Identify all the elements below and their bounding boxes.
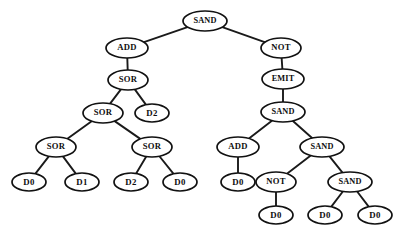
node-label: D2 (125, 177, 137, 187)
tree-edge (331, 191, 343, 206)
node-label: SOR (47, 141, 66, 151)
node-label: D0 (232, 177, 244, 187)
node-label: NOT (271, 42, 291, 52)
node-label: SAND (194, 16, 217, 25)
tree-node[interactable]: SAND (261, 102, 305, 122)
tree-node[interactable]: SOR (132, 137, 172, 157)
tree-edge (287, 156, 311, 174)
tree-node[interactable]: D2 (114, 173, 148, 191)
node-label: D2 (146, 108, 158, 118)
tree-node[interactable]: SOR (83, 103, 123, 123)
tree-node[interactable]: ADD (106, 38, 148, 58)
tree-node[interactable]: D0 (259, 206, 293, 224)
tree-node[interactable]: D0 (358, 206, 392, 224)
node-label: SOR (119, 74, 138, 84)
node-label: EMIT (272, 74, 295, 83)
tree-edge (357, 191, 369, 206)
tree-edge (135, 89, 146, 104)
tree-edge (282, 58, 283, 69)
tree-edge (293, 121, 312, 138)
tree-node[interactable]: EMIT (262, 69, 304, 89)
node-label: D1 (76, 177, 87, 187)
node-label: SAND (311, 142, 334, 151)
tree-edge (159, 156, 173, 173)
node-label: NOT (266, 176, 286, 186)
node-label: D0 (369, 210, 381, 220)
node-layer: SANDADDNOTSOREMITSORD2SANDSORSORADDSANDD… (12, 11, 392, 224)
tree-edge (249, 121, 272, 139)
tree-node[interactable]: ADD (217, 137, 259, 157)
tree-node[interactable]: NOT (256, 172, 296, 192)
tree-edge (136, 157, 146, 174)
tree-edge (35, 156, 48, 173)
node-label: D0 (270, 210, 282, 220)
node-label: D0 (23, 177, 35, 187)
tree-edge (67, 121, 91, 139)
tree-node[interactable]: D0 (12, 173, 46, 191)
tree-edge (144, 27, 188, 42)
tree-svg-canvas: SANDADDNOTSOREMITSORD2SANDSORSORADDSANDD… (0, 0, 411, 240)
tree-edge (330, 156, 343, 172)
node-label: D0 (319, 210, 331, 220)
node-label: SOR (94, 107, 113, 117)
tree-node[interactable]: SOR (108, 70, 148, 90)
tree-edge (110, 89, 121, 103)
tree-node[interactable]: SAND (183, 11, 227, 31)
tree-node[interactable]: NOT (261, 38, 301, 58)
tree-node[interactable]: SAND (300, 137, 344, 157)
tree-node[interactable]: D1 (65, 173, 99, 191)
tree-edge (115, 121, 141, 139)
tree-edge (222, 27, 264, 42)
tree-node[interactable]: D0 (308, 206, 342, 224)
tree-node[interactable]: D2 (135, 104, 169, 122)
tree-edge (63, 156, 76, 173)
node-label: ADD (117, 42, 137, 52)
tree-node[interactable]: SAND (328, 172, 372, 192)
node-label: SOR (143, 141, 162, 151)
node-label: D0 (174, 177, 186, 187)
expression-tree-diagram: SANDADDNOTSOREMITSORD2SANDSORSORADDSANDD… (0, 0, 411, 240)
tree-node[interactable]: D0 (163, 173, 197, 191)
node-label: SAND (272, 107, 295, 116)
node-label: SAND (339, 177, 362, 186)
tree-node[interactable]: SOR (36, 137, 76, 157)
node-label: ADD (228, 141, 248, 151)
tree-node[interactable]: D0 (221, 173, 255, 191)
